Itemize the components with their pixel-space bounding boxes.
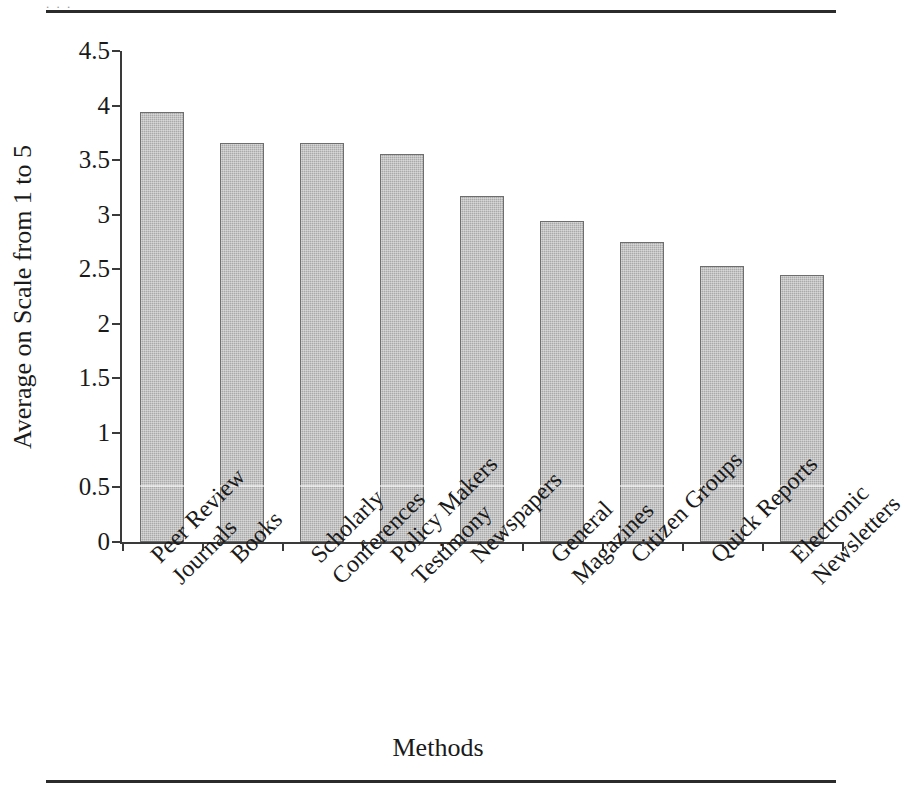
x-axis-title: Methods	[0, 733, 876, 763]
bar-chart-figure: Average on Scale from 1 to 5 00.511.522.…	[0, 10, 876, 780]
y-axis-tick-label: 0	[98, 529, 111, 554]
y-axis-tick-labels: 00.511.522.533.544.5	[46, 51, 110, 542]
x-axis-category-labels: Peer ReviewJournalsBooksScholarlyConfere…	[120, 544, 880, 694]
y-axis-tick-label: 4	[98, 93, 111, 118]
y-axis-tick-label: 2	[98, 311, 111, 336]
caption-remnant: . . .	[46, 0, 836, 8]
y-axis-tick-label: 1	[98, 420, 111, 445]
y-axis-tick	[112, 432, 120, 434]
y-axis-tick	[112, 214, 120, 216]
y-axis-tick-label: 3.5	[79, 147, 110, 172]
y-axis-tick	[112, 50, 120, 52]
y-axis-tick	[112, 541, 120, 543]
y-axis-tick	[112, 268, 120, 270]
y-axis-tick-label: 3	[98, 202, 111, 227]
y-axis-tick-label: 4.5	[79, 38, 110, 63]
y-axis-tick-label: 1.5	[79, 365, 110, 390]
y-axis-tick	[112, 377, 120, 379]
y-axis-tick	[112, 105, 120, 107]
y-axis-tick	[112, 323, 120, 325]
bar	[300, 143, 344, 542]
y-axis-tick-label: 0.5	[79, 474, 110, 499]
y-axis-line	[120, 51, 122, 544]
y-axis-tick	[112, 159, 120, 161]
y-axis-tick	[112, 486, 120, 488]
bar	[140, 112, 184, 542]
y-axis-tick-label: 2.5	[79, 256, 110, 281]
y-axis-title: Average on Scale from 1 to 5	[8, 144, 38, 448]
y-axis-title-container: Average on Scale from 1 to 5	[0, 51, 46, 542]
page-rule-bottom	[46, 780, 836, 783]
